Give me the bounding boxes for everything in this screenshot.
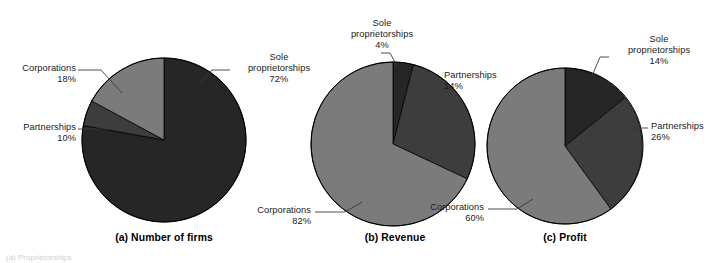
- pie-a-label-corporations-value: 18%: [0, 74, 76, 85]
- pie-b-label-corporations: Corporations 82%: [217, 205, 311, 227]
- pie-c-label-corporations-name: Corporations: [390, 202, 484, 213]
- pie-c-label-sole-name2: proprietorships: [612, 45, 706, 56]
- pie-a-label-corporations: Corporations 18%: [0, 63, 76, 85]
- pie-c-label-sole-name: Sole: [612, 34, 706, 45]
- pie-b-label-partnerships-name: Partnerships: [444, 70, 544, 81]
- pie-a-label-partnerships-name: Partnerships: [0, 122, 76, 133]
- pie-a-label-sole-name: Sole: [233, 52, 325, 63]
- caption-c: (c) Profit: [510, 232, 620, 243]
- pie-c-label-corporations-value: 60%: [390, 213, 484, 224]
- pie-c-label-corporations: Corporations 60%: [390, 202, 484, 224]
- pie-c-label-partnerships-value: 26%: [651, 132, 720, 143]
- pie-c-label-sole-value: 14%: [612, 56, 706, 67]
- pie-a-label-sole-value: 72%: [233, 74, 325, 85]
- pie-b-label-sole-name: Sole: [336, 18, 428, 29]
- pie-b-label-sole-value: 4%: [336, 40, 428, 51]
- pie-c-label-partnerships: Partnerships 26%: [651, 121, 720, 143]
- pie-b-label-partnerships-value: 14%: [444, 81, 544, 92]
- pie-b-label-sole-proprietorships: Sole proprietorships 4%: [336, 18, 428, 52]
- pie-b-label-sole-name2: proprietorships: [336, 29, 428, 40]
- page-bottom-text-fragment: (a) Proprietorships: [6, 253, 72, 263]
- pie-c-label-partnerships-name: Partnerships: [651, 121, 720, 132]
- pie-a-label-corporations-name: Corporations: [0, 63, 76, 74]
- pie-c-label-sole-proprietorships: Sole proprietorships 14%: [612, 34, 706, 68]
- caption-a: (a) Number of firms: [96, 232, 232, 243]
- pie-a-label-partnerships-value: 10%: [0, 133, 76, 144]
- pie-b-label-corporations-name: Corporations: [217, 205, 311, 216]
- caption-b: (b) Revenue: [330, 232, 460, 243]
- pie-b-label-partnerships: Partnerships 14%: [444, 70, 544, 92]
- pie-a-label-sole-name2: proprietorships: [233, 63, 325, 74]
- pie-c-leader-sole: [592, 57, 609, 76]
- pie-chart-figure: Corporations 18% Partnerships 10% Sole p…: [0, 0, 720, 263]
- pie-a-label-partnerships: Partnerships 10%: [0, 122, 76, 144]
- pie-a-label-sole-proprietorships: Sole proprietorships 72%: [233, 52, 325, 86]
- pie-a-number-of-firms: [78, 58, 251, 227]
- pie-b-label-corporations-value: 82%: [217, 216, 311, 227]
